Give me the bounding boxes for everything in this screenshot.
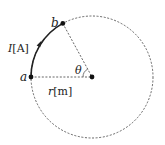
angle-arc	[83, 69, 88, 77]
arc-current-diagram: b a I[A] θ r[m]	[0, 0, 165, 145]
label-angle: θ	[75, 64, 82, 77]
current-direction-arrow-icon	[37, 41, 42, 48]
center-dot	[90, 75, 95, 80]
point-a-dot	[29, 75, 34, 80]
label-radius: r[m]	[48, 85, 72, 98]
label-a: a	[20, 70, 27, 84]
label-current: I[A]	[7, 42, 29, 55]
current-unit: [A]	[12, 42, 29, 55]
label-b: b	[51, 16, 59, 30]
radius-unit: [m]	[53, 85, 72, 98]
current-arc	[31, 23, 63, 77]
point-b-dot	[60, 21, 65, 26]
